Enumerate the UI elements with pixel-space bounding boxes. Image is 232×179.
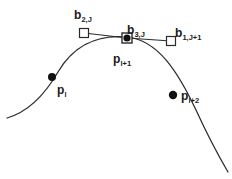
label-pl: pl [57, 81, 66, 97]
label-b3J: b3,J [127, 21, 145, 37]
b2J-square-marker [80, 29, 89, 38]
label-b1J1: b1,J+1 [175, 24, 201, 40]
label-pl1-sub: l+1 [120, 59, 131, 68]
spline-diagram: b2,J b3,J b1,J+1 pl+1 pl pl+2 [0, 0, 232, 179]
label-pl1: pl+1 [113, 50, 131, 66]
label-b2J-sub: 2,J [81, 15, 91, 24]
label-b1J1-sub: 1,J+1 [182, 33, 201, 42]
label-pl2-sub: l+2 [188, 96, 199, 105]
label-pl-sub: l [64, 90, 66, 99]
pl2-dot-marker [169, 91, 177, 99]
label-pl2: pl+2 [181, 87, 199, 103]
pl-dot-marker [48, 73, 56, 81]
label-b2J: b2,J [74, 6, 92, 22]
label-b3J-sub: 3,J [134, 30, 144, 39]
